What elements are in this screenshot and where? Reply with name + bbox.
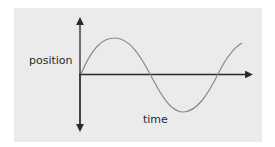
- x-axis-label: time: [143, 113, 168, 126]
- position-time-graph: [0, 0, 275, 147]
- y-axis-label: position: [29, 54, 73, 67]
